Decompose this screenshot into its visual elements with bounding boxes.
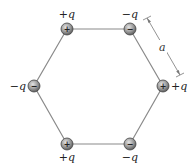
hexagon-outline [34,29,163,144]
charge-left: − −q [10,80,40,93]
charge-bottom-left: + +q [59,138,75,164]
side-length-label: a [159,41,166,54]
side-length-dimension: a [143,16,184,77]
charge-label: −q [122,151,138,164]
charge-top-right: − −q [122,8,138,35]
plus-sign-icon: + [64,25,71,34]
charge-top-left: + +q [59,8,75,35]
minus-sign-icon: − [31,82,38,91]
charge-right: + +q [157,80,187,93]
charge-bottom-right: − −q [122,138,138,164]
minus-sign-icon: − [127,25,134,34]
charge-label: +q [59,151,75,164]
hexagon-charge-diagram: a + +q − −q + +q − −q + +q − −q [0,0,194,165]
plus-sign-icon: + [64,140,71,149]
charge-label: −q [10,80,26,93]
minus-sign-icon: − [127,140,134,149]
charge-label: +q [171,80,187,93]
charge-label: −q [122,8,138,21]
plus-sign-icon: + [160,82,167,91]
charge-label: +q [59,8,75,21]
